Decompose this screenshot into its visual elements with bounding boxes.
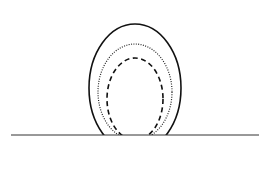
inner-dashed-contour	[107, 58, 163, 140]
outer-solid-contour	[89, 24, 181, 152]
nested-contour-diagram	[0, 0, 274, 175]
